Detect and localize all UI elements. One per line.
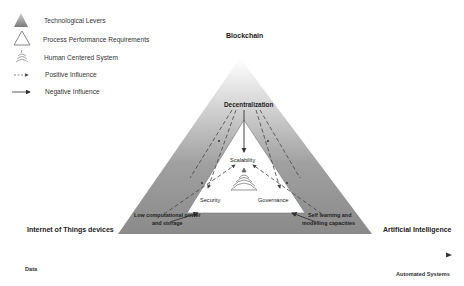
node-low-power-line2: and storage	[152, 220, 183, 226]
node-self-learning-line2: modelling capacities	[302, 220, 355, 226]
legend-label-negative-influence: Negative Influence	[45, 88, 100, 95]
node-scalability: Scalability	[230, 157, 255, 163]
node-security: Security	[200, 197, 220, 203]
node-governance: Governance	[258, 197, 288, 203]
axis-start-label: Data	[25, 266, 37, 272]
node-low-power-line1: Low computational power	[134, 212, 201, 218]
legend-label-human-centered: Human Centered System	[44, 54, 118, 61]
corner-label-ai: Artificial Intelligence	[383, 226, 451, 233]
legend-label-technological-levers: Technological Levers	[44, 17, 106, 24]
axis-arrowhead-icon	[446, 253, 452, 258]
legend-label-positive-influence: Positive Influence	[45, 71, 97, 78]
corner-label-iot: Internet of Things devices	[27, 226, 114, 233]
axis-end-label: Automated Systems	[396, 271, 450, 277]
node-self-learning-line1: Self learning and	[308, 212, 351, 218]
legend-icons	[12, 13, 30, 92]
corner-label-blockchain: Blockchain	[226, 32, 263, 39]
outline-triangle-icon	[14, 31, 30, 45]
legend-label-process-performance: Process Performance Requirements	[43, 36, 149, 43]
human-centered-wave-icon	[16, 50, 28, 62]
node-decentralization: Decentralization	[224, 101, 273, 108]
shaded-triangle-icon	[14, 13, 28, 27]
